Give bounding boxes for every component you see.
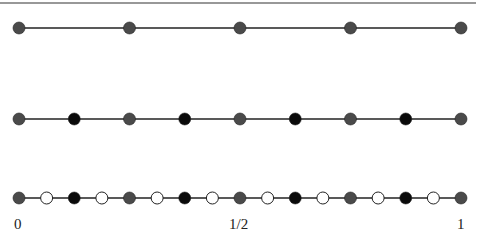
- partition-row-level-0: [13, 22, 467, 34]
- partition-row-level-2: [13, 192, 467, 204]
- node-black: [289, 113, 301, 125]
- node-white: [41, 192, 53, 204]
- axis-label-one: 1: [457, 216, 465, 233]
- node-white: [427, 192, 439, 204]
- node-gray: [345, 192, 357, 204]
- axis-label-half: 1/2: [229, 216, 248, 233]
- node-black: [400, 192, 412, 204]
- node-gray: [234, 113, 246, 125]
- node-gray: [345, 113, 357, 125]
- axis-label-zero: 0: [14, 216, 22, 233]
- node-white: [262, 192, 274, 204]
- node-gray: [234, 192, 246, 204]
- node-gray: [124, 113, 136, 125]
- node-white: [96, 192, 108, 204]
- node-white: [151, 192, 163, 204]
- node-black: [289, 192, 301, 204]
- node-gray: [124, 22, 136, 34]
- node-gray: [345, 22, 357, 34]
- node-black: [179, 113, 191, 125]
- node-black: [179, 192, 191, 204]
- node-gray: [455, 22, 467, 34]
- node-gray: [455, 192, 467, 204]
- node-black: [68, 113, 80, 125]
- node-black: [68, 192, 80, 204]
- node-gray: [13, 113, 25, 125]
- node-white: [206, 192, 218, 204]
- partition-row-level-1: [13, 113, 467, 125]
- node-white: [372, 192, 384, 204]
- node-gray: [124, 192, 136, 204]
- node-black: [400, 113, 412, 125]
- node-white: [317, 192, 329, 204]
- node-gray: [13, 22, 25, 34]
- node-gray: [455, 113, 467, 125]
- node-gray: [13, 192, 25, 204]
- node-gray: [234, 22, 246, 34]
- partition-diagram: [0, 0, 480, 240]
